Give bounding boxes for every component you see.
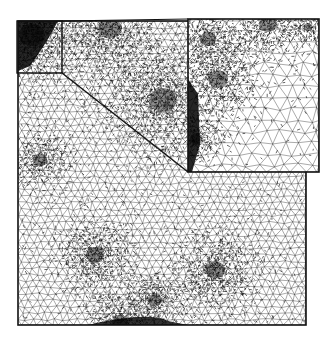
mesh-svg bbox=[0, 0, 331, 346]
inset-magnified-view bbox=[185, 16, 321, 172]
mesh-figure bbox=[0, 0, 331, 346]
